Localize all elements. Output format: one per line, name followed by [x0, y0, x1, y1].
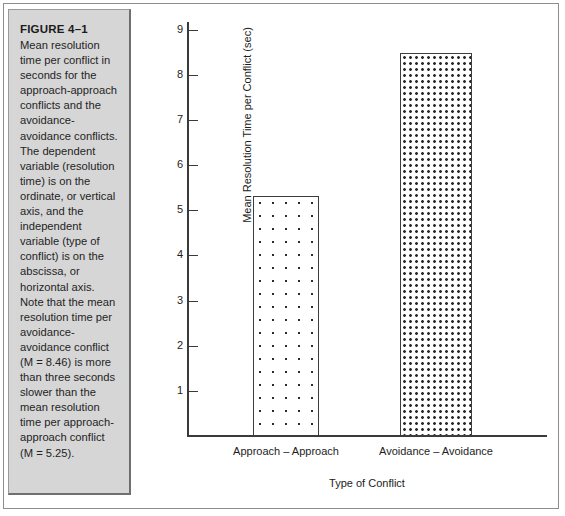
y-tick-label-5: 5 — [177, 202, 183, 217]
y-tick-label-8: 8 — [177, 67, 183, 82]
y-axis-line — [187, 22, 189, 437]
x-category-label-approach-approach: Approach – Approach — [233, 445, 339, 457]
y-tick-6: 6 — [189, 165, 198, 166]
y-tick-9: 9 — [189, 30, 198, 31]
y-tick-label-3: 3 — [177, 293, 183, 308]
x-axis-line — [187, 435, 547, 437]
y-tick-5: 5 — [189, 210, 198, 211]
figure-caption-panel: FIGURE 4–1 Mean resolution time per conf… — [8, 9, 131, 495]
figure-caption-text: Mean resolution time per conflict in sec… — [20, 38, 120, 461]
x-axis-title: Type of Conflict — [187, 477, 547, 489]
y-tick-label-6: 6 — [177, 157, 183, 172]
y-tick-2: 2 — [189, 346, 198, 347]
y-tick-label-7: 7 — [177, 112, 183, 127]
chart-area: Mean Resolution Time per Conflict (sec) … — [137, 9, 555, 495]
y-tick-3: 3 — [189, 301, 198, 302]
bar-avoidance-avoidance[interactable] — [400, 53, 472, 436]
y-tick-label-2: 2 — [177, 338, 183, 353]
y-tick-4: 4 — [189, 255, 198, 256]
figure-root: FIGURE 4–1 Mean resolution time per conf… — [0, 0, 565, 516]
y-tick-1: 1 — [189, 391, 198, 392]
bar-approach-approach[interactable] — [253, 196, 319, 436]
y-tick-7: 7 — [189, 120, 198, 121]
plot-axes: 1 2 3 4 5 6 7 8 9 — [187, 22, 547, 437]
x-category-label-avoidance-avoidance: Avoidance – Avoidance — [379, 445, 493, 457]
figure-number-title: FIGURE 4–1 — [20, 22, 120, 37]
y-tick-8: 8 — [189, 75, 198, 76]
y-tick-label-1: 1 — [177, 383, 183, 398]
y-tick-label-4: 4 — [177, 247, 183, 262]
y-tick-label-9: 9 — [177, 22, 183, 37]
